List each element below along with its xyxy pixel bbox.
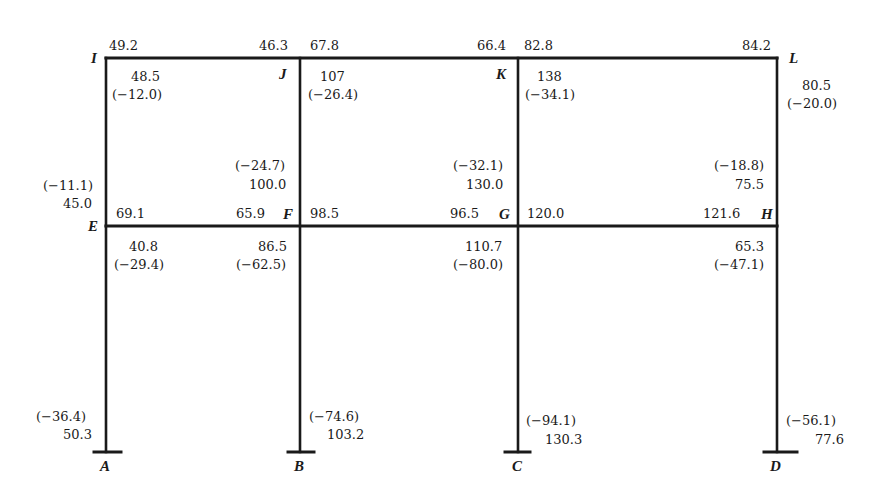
moment-DH-bottom-paren: (−56.1) bbox=[786, 413, 836, 428]
midspan-KL-paren: (−34.1) bbox=[525, 87, 575, 102]
moment-AE-bottom: 50.3 bbox=[63, 427, 92, 442]
moment-JK-right: 66.4 bbox=[477, 38, 506, 53]
node-label-G: G bbox=[499, 206, 510, 223]
moment-GK-bottom-paren: (−32.1) bbox=[453, 158, 503, 173]
moment-KL-left: 82.8 bbox=[524, 38, 553, 53]
node-label-K: K bbox=[496, 66, 506, 83]
moment-FG-right: 96.5 bbox=[450, 206, 479, 221]
moment-EI-bottom-paren: (−11.1) bbox=[43, 178, 93, 193]
moment-CG-bottom: 130.3 bbox=[545, 432, 582, 447]
midspan-JK-value: 107 bbox=[320, 69, 345, 84]
moment-AE-bottom-paren: (−36.4) bbox=[36, 409, 86, 424]
moment-BF-top-paren: (−62.5) bbox=[236, 257, 286, 272]
node-label-E: E bbox=[88, 218, 98, 235]
moment-FG-left: 98.5 bbox=[310, 206, 339, 221]
moment-HL-top-paren: (−20.0) bbox=[787, 96, 837, 111]
midspan-IJ-value: 48.5 bbox=[131, 69, 160, 84]
moment-EI-bottom: 45.0 bbox=[63, 196, 92, 211]
moment-DH-top: 65.3 bbox=[735, 239, 764, 254]
moment-KL-right: 84.2 bbox=[742, 38, 771, 53]
moment-HL-bottom: 75.5 bbox=[735, 177, 764, 192]
moment-HL-top: 80.5 bbox=[802, 78, 831, 93]
moment-AE-top-paren: (−29.4) bbox=[114, 257, 164, 272]
moment-IJ-right: 46.3 bbox=[259, 38, 288, 53]
node-label-H: H bbox=[761, 206, 773, 223]
moment-IJ-left: 49.2 bbox=[109, 38, 138, 53]
node-label-D: D bbox=[770, 458, 781, 475]
moment-AE-top: 40.8 bbox=[129, 239, 158, 254]
moment-HL-bottom-paren: (−18.8) bbox=[714, 158, 764, 173]
midspan-KL-value: 138 bbox=[537, 69, 562, 84]
node-label-F: F bbox=[283, 206, 293, 223]
moment-EF-right: 65.9 bbox=[236, 206, 265, 221]
moment-CG-top: 110.7 bbox=[465, 239, 502, 254]
node-label-J: J bbox=[279, 66, 287, 83]
moment-BF-bottom-paren: (−74.6) bbox=[309, 409, 359, 424]
moment-BF-top: 86.5 bbox=[258, 239, 287, 254]
moment-DH-top-paren: (−47.1) bbox=[714, 257, 764, 272]
moment-GH-right: 121.6 bbox=[703, 206, 740, 221]
moment-EF-left: 69.1 bbox=[116, 206, 145, 221]
node-label-L: L bbox=[789, 50, 798, 67]
moment-DH-bottom: 77.6 bbox=[815, 432, 844, 447]
moment-CG-bottom-paren: (−94.1) bbox=[526, 413, 576, 428]
moment-GK-bottom: 130.0 bbox=[466, 177, 503, 192]
moment-BF-bottom: 103.2 bbox=[327, 427, 364, 442]
node-label-A: A bbox=[100, 458, 110, 475]
node-label-C: C bbox=[512, 458, 522, 475]
node-label-B: B bbox=[294, 458, 304, 475]
moment-FJ-bottom: 100.0 bbox=[249, 177, 286, 192]
moment-CG-top-paren: (−80.0) bbox=[453, 257, 503, 272]
node-label-I: I bbox=[91, 50, 97, 67]
moment-JK-left: 67.8 bbox=[310, 38, 339, 53]
moment-FJ-bottom-paren: (−24.7) bbox=[235, 158, 285, 173]
midspan-IJ-paren: (−12.0) bbox=[112, 87, 162, 102]
moment-GH-left: 120.0 bbox=[527, 206, 564, 221]
midspan-JK-paren: (−26.4) bbox=[308, 87, 358, 102]
